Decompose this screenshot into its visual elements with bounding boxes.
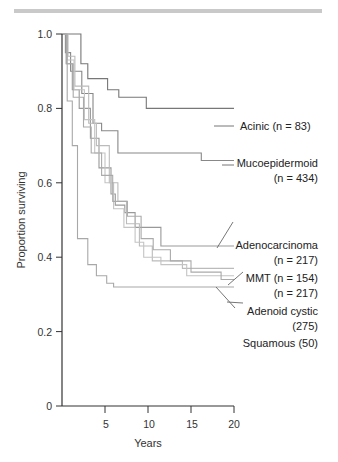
x-tick-label: 10 [143, 418, 155, 430]
label-squamous: Squamous (50) [243, 337, 318, 349]
x-ticks: 5 10 15 20 [103, 406, 240, 430]
label-acinic: Acinic (n = 83) [240, 120, 311, 132]
label-mucoepidermoid-n: (n = 434) [274, 172, 318, 184]
x-axis-title: Years [134, 437, 162, 449]
survival-chart: 0 0.2 0.4 0.6 0.8 1.0 5 10 15 20 Years P… [0, 0, 338, 462]
survival-curves [62, 34, 234, 287]
y-tick-label: 0.4 [37, 251, 52, 263]
label-mmt-n: (n = 217) [274, 287, 318, 299]
label-adenoid-cystic-n: (275) [292, 320, 318, 332]
x-tick-label: 20 [228, 418, 240, 430]
label-leader-lines [214, 126, 243, 308]
y-axis-title: Proportion surviving [15, 171, 27, 268]
y-ticks: 0 0.2 0.4 0.6 0.8 1.0 [37, 28, 62, 412]
y-tick-label: 0.8 [37, 102, 52, 114]
label-adenoid-cystic: Adenoid cystic [247, 305, 318, 317]
series-labels: Acinic (n = 83) Mucoepidermoid (n = 434)… [235, 120, 318, 349]
survival-curve-1 [62, 34, 234, 161]
x-tick-label: 15 [186, 418, 198, 430]
y-tick-label: 0 [46, 400, 52, 412]
label-mmt: MMT (n = 154) [246, 272, 318, 284]
label-adenocarcinoma-n: (n = 217) [274, 254, 318, 266]
label-adenocarcinoma: Adenocarcinoma [235, 239, 318, 251]
label-mucoepidermoid: Mucoepidermoid [237, 157, 318, 169]
y-tick-label: 0.6 [37, 177, 52, 189]
y-tick-label: 0.2 [37, 326, 52, 338]
x-tick-label: 5 [103, 418, 109, 430]
y-tick-label: 1.0 [37, 28, 52, 40]
survival-curve-0 [62, 34, 234, 108]
